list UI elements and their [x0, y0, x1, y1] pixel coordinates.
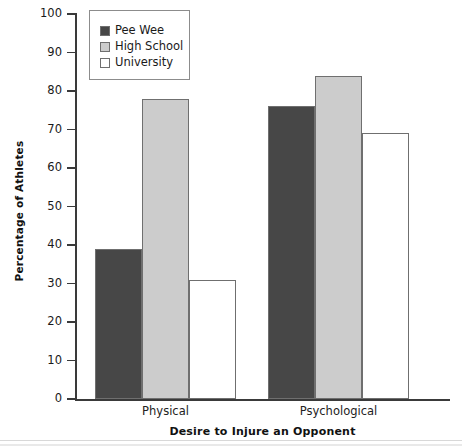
y-tick-mark — [67, 13, 76, 15]
y-tick-label: 50 — [34, 201, 62, 213]
legend-item: University — [100, 56, 173, 70]
y-tick-label: 10 — [34, 355, 62, 367]
y-tick-label-wrap: 40 — [30, 239, 62, 251]
y-tick-mark — [67, 206, 76, 208]
y-tick-label: 90 — [34, 47, 62, 59]
legend-swatch-icon — [100, 42, 110, 52]
plot-area: 0102030405060708090100 PhysicalPsycholog… — [0, 0, 462, 446]
legend-item: High School — [100, 40, 183, 54]
bar — [142, 99, 189, 399]
x-axis-line — [75, 399, 450, 401]
legend-label: Pee Wee — [115, 25, 164, 37]
legend-label: University — [115, 57, 173, 69]
y-tick-label-wrap: 100 — [30, 8, 62, 20]
y-tick-label-wrap: 70 — [30, 124, 62, 136]
y-tick-label-wrap: 80 — [30, 85, 62, 97]
bar — [268, 106, 315, 399]
legend: Pee WeeHigh SchoolUniversity — [89, 10, 190, 80]
legend-item: Pee Wee — [100, 24, 164, 38]
y-tick-mark — [67, 398, 76, 400]
y-tick-label-wrap: 20 — [30, 316, 62, 328]
y-tick-label: 30 — [34, 278, 62, 290]
x-axis-category-label: Physical — [86, 404, 246, 418]
y-tick-mark — [67, 321, 76, 323]
legend-swatch-icon — [100, 58, 110, 68]
page-divider — [0, 440, 462, 441]
y-tick-label: 0 — [34, 393, 62, 405]
y-tick-label: 40 — [34, 239, 62, 251]
y-tick-label-wrap: 90 — [30, 47, 62, 59]
y-tick-label: 20 — [34, 316, 62, 328]
y-tick-mark — [67, 129, 76, 131]
y-tick-mark — [67, 167, 76, 169]
x-axis-title: Desire to Injure an Opponent — [75, 425, 450, 438]
y-tick-label-wrap: 10 — [30, 355, 62, 367]
bar — [95, 249, 142, 399]
legend-label: High School — [115, 41, 183, 53]
y-tick-mark — [67, 52, 76, 54]
y-tick-label-wrap: 0 — [30, 393, 62, 405]
bar-chart: 0102030405060708090100 PhysicalPsycholog… — [0, 0, 462, 446]
y-tick-label-wrap: 30 — [30, 278, 62, 290]
y-axis-title: Percentage of Athletes — [13, 131, 25, 291]
x-axis-category-label: Psychological — [259, 404, 419, 418]
y-tick-label: 80 — [34, 85, 62, 97]
y-tick-mark — [67, 360, 76, 362]
y-tick-label: 60 — [34, 162, 62, 174]
bar — [189, 280, 236, 399]
y-tick-label-wrap: 50 — [30, 201, 62, 213]
bar — [315, 76, 362, 399]
y-tick-label: 100 — [34, 8, 62, 20]
legend-swatch-icon — [100, 26, 110, 36]
y-tick-mark — [67, 244, 76, 246]
y-tick-mark — [67, 283, 76, 285]
y-tick-mark — [67, 90, 76, 92]
y-tick-label: 70 — [34, 124, 62, 136]
bar — [362, 133, 409, 399]
y-tick-label-wrap: 60 — [30, 162, 62, 174]
